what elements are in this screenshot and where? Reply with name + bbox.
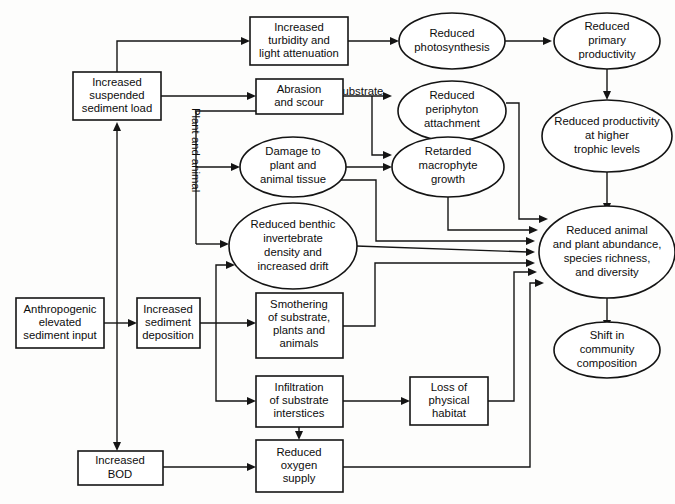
node-benthic-line4: increased drift	[258, 260, 330, 272]
arrowhead-icon	[383, 92, 392, 100]
node-turbidity-line1: Increased	[274, 21, 324, 33]
arrowhead-icon	[526, 237, 535, 245]
node-habitat-line2: physical	[429, 394, 470, 406]
edge-benthic-abundance	[356, 246, 528, 252]
node-smothering-line2: of substrate,	[268, 311, 330, 323]
node-turbidity-line2: turbidity and	[268, 34, 330, 46]
node-infiltration-line1: Infiltration	[275, 381, 324, 393]
node-abundance[interactable]: Reduced animal and plant abundance, spec…	[539, 206, 675, 298]
node-primaryprod[interactable]: Reduced primary productivity	[554, 13, 660, 69]
node-infiltration-line2: of substrate	[269, 394, 328, 406]
node-primaryprod-line3: productivity	[578, 48, 635, 60]
node-habitat[interactable]: Loss of physical habitat	[410, 377, 488, 425]
arrowhead-icon	[128, 319, 137, 327]
node-benthic-line2: invertebrate	[263, 232, 323, 244]
node-smothering[interactable]: Smothering of substrate, plants and anim…	[256, 293, 343, 358]
node-primaryprod-line2: primary	[588, 34, 626, 46]
node-suspended[interactable]: Increased suspended sediment load	[73, 72, 161, 120]
arrowhead-icon	[247, 319, 256, 327]
node-oxygen-line1: Reduced	[276, 446, 321, 458]
edge-deposition-infiltration	[216, 323, 249, 401]
node-oxygen[interactable]: Reduced oxygen supply	[256, 440, 343, 492]
arrowhead-icon	[247, 92, 256, 100]
node-bod-line2: BOD	[108, 468, 132, 480]
node-shift-line2: community	[580, 343, 635, 355]
arrowhead-icon	[231, 163, 240, 171]
arrowhead-icon	[526, 259, 535, 267]
edge-oxygen-abundance	[343, 283, 537, 467]
node-damage-line2: plant and	[270, 159, 316, 171]
node-photosynthesis[interactable]: Reduced photosynthesis	[399, 13, 505, 69]
edge-smothering-abundance	[343, 263, 528, 326]
node-trophic[interactable]: Reduced productivity at higher trophic l…	[542, 100, 672, 172]
edge-suspended-turbidity	[117, 41, 243, 72]
node-damage[interactable]: Damage to plant and animal tissue	[240, 137, 346, 197]
node-shift-line1: Shift in	[590, 329, 625, 341]
node-damage-line1: Damage to	[265, 145, 320, 157]
node-anthropogenic[interactable]: Anthropogenic elevated sediment input	[16, 298, 104, 348]
arrowhead-icon	[529, 226, 538, 234]
node-smothering-line1: Smothering	[270, 298, 328, 310]
node-macrophyte[interactable]: Retarded macrophyte growth	[392, 137, 504, 197]
arrowhead-icon	[241, 37, 250, 45]
arrowhead-icon	[603, 91, 611, 100]
arrowhead-icon	[247, 463, 256, 471]
arrowhead-icon	[113, 442, 121, 451]
flowchart-diagram: Substrate Plant and animal Increased tur…	[0, 0, 675, 504]
arrowhead-icon	[383, 163, 392, 171]
node-habitat-line3: habitat	[432, 407, 467, 419]
node-bod-line1: Increased	[95, 454, 145, 466]
node-trophic-line2: at higher	[585, 129, 629, 141]
node-periphyton-line2: periphyton	[426, 103, 479, 115]
arrowhead-icon	[543, 37, 552, 45]
flowchart-canvas: Substrate Plant and animal Increased tur…	[0, 0, 675, 504]
edge-periphyton-abundance	[506, 103, 541, 219]
node-anthropogenic-line1: Anthropogenic	[24, 303, 97, 315]
node-abrasion-line2: and scour	[274, 96, 324, 108]
node-macrophyte-line1: Retarded	[425, 145, 471, 157]
node-deposition-line3: deposition	[142, 329, 194, 341]
node-shift-line3: composition	[577, 357, 637, 369]
node-periphyton-line1: Reduced	[429, 89, 474, 101]
arrowhead-icon	[383, 151, 392, 159]
arrowhead-icon	[535, 279, 544, 287]
node-abundance-line3: species richness,	[564, 252, 651, 264]
node-periphyton-line3: attachment	[424, 117, 481, 129]
node-suspended-line3: sediment load	[82, 102, 152, 114]
node-suspended-line2: suspended	[89, 89, 144, 101]
node-primaryprod-line1: Reduced	[584, 20, 629, 32]
node-macrophyte-line3: growth	[431, 173, 465, 185]
node-periphyton[interactable]: Reduced periphyton attachment	[398, 81, 506, 141]
node-deposition-line1: Increased	[143, 303, 193, 315]
node-trophic-line3: trophic levels	[574, 143, 640, 155]
node-oxygen-line3: supply	[283, 472, 316, 484]
arrowhead-icon	[539, 215, 548, 223]
node-anthropogenic-line3: sediment input	[23, 329, 97, 341]
node-benthic-line3: density and	[264, 246, 322, 258]
arrowhead-icon	[247, 397, 256, 405]
node-macrophyte-line2: macrophyte	[418, 159, 477, 171]
arrowhead-icon	[295, 431, 303, 440]
node-deposition-line2: sediment	[145, 316, 192, 328]
arrowhead-icon	[390, 37, 399, 45]
node-abrasion[interactable]: Abrasion and scour	[256, 79, 343, 114]
node-turbidity[interactable]: Increased turbidity and light attenuatio…	[250, 17, 348, 65]
node-deposition[interactable]: Increased sediment deposition	[137, 298, 200, 348]
node-benthic-line1: Reduced benthic	[251, 218, 336, 230]
node-damage-line3: animal tissue	[260, 173, 326, 185]
node-infiltration[interactable]: Infiltration of substrate interstices	[256, 376, 343, 427]
edge-deposition-benthic	[200, 265, 228, 323]
node-anthropogenic-line2: elevated	[39, 316, 82, 328]
edge-substrate-branch-down	[372, 96, 385, 155]
node-benthic[interactable]: Reduced benthic invertebrate density and…	[229, 203, 357, 289]
node-turbidity-line3: light attenuation	[259, 47, 339, 59]
arrowhead-icon	[528, 268, 537, 276]
node-oxygen-line2: oxygen	[281, 459, 317, 471]
node-shift[interactable]: Shift in community composition	[554, 322, 660, 378]
arrowhead-icon	[526, 248, 535, 256]
node-abundance-line4: and diversity	[575, 266, 639, 278]
node-abrasion-line1: Abrasion	[277, 83, 322, 95]
node-photosynthesis-line1: Reduced	[429, 27, 474, 39]
node-bod[interactable]: Increased BOD	[78, 451, 163, 485]
arrowhead-icon	[401, 397, 410, 405]
